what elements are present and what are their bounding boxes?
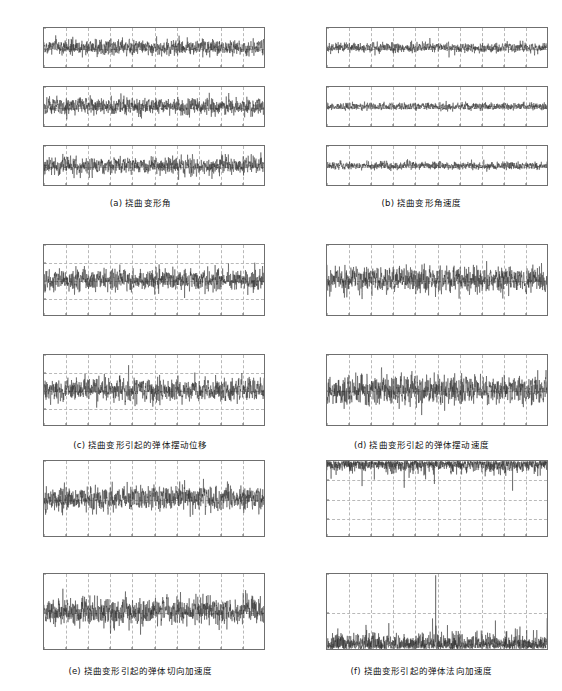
x-tick-mark — [370, 183, 371, 186]
x-tick-mark — [437, 534, 438, 537]
subplot: 500-500102030405060708090100t / sωϕz / (… — [326, 145, 548, 186]
data-trace — [44, 245, 264, 315]
y-tick-mark — [44, 355, 47, 356]
x-tick-mark — [526, 423, 527, 426]
x-tick-mark — [481, 534, 482, 537]
x-tick-mark — [243, 423, 244, 426]
x-tick-mark — [154, 534, 155, 537]
x-tick-mark — [326, 647, 327, 650]
x-tick-mark — [393, 65, 394, 68]
x-tick-mark — [43, 124, 44, 127]
x-tick-mark — [415, 183, 416, 186]
x-tick-mark — [87, 183, 88, 186]
data-trace — [44, 574, 264, 649]
x-tick-mark — [198, 647, 199, 650]
y-tick-mark — [44, 612, 47, 613]
panel-caption: (b) 挠曲变形角速度 — [281, 196, 562, 208]
x-tick-mark — [110, 647, 111, 650]
plot-area: 0.020.010-0.01-0.02010203040506070809010… — [43, 354, 265, 426]
x-tick-mark — [243, 124, 244, 127]
x-tick-mark — [481, 313, 482, 316]
x-tick-mark — [459, 534, 460, 537]
y-tick-mark — [44, 299, 47, 300]
x-tick-mark — [348, 183, 349, 186]
x-tick-mark — [65, 183, 66, 186]
x-tick-mark — [132, 647, 133, 650]
panel-c: 0.020.010-0.01-0.02010203040506070809010… — [0, 222, 281, 444]
x-tick-mark — [415, 65, 416, 68]
data-trace — [44, 461, 264, 536]
x-tick-mark — [459, 423, 460, 426]
x-tick-mark — [437, 65, 438, 68]
plot-area: 0-0.1-0.2-0.3-0.40102030405060708090100t… — [326, 460, 548, 537]
y-tick-mark — [327, 28, 330, 29]
x-tick-mark — [481, 423, 482, 426]
x-tick-mark — [415, 534, 416, 537]
x-tick-mark — [481, 124, 482, 127]
x-tick-mark — [437, 313, 438, 316]
x-tick-mark — [176, 534, 177, 537]
x-tick-mark — [348, 423, 349, 426]
subplot-stack: 50-50102030405060708090100t / safy / m·s… — [0, 444, 281, 650]
plot-area: 10-10102030405060708090100t / sΔϕy / (°) — [43, 27, 265, 68]
x-tick-mark — [110, 124, 111, 127]
x-tick-mark — [132, 65, 133, 68]
x-tick-mark — [65, 423, 66, 426]
y-tick-mark — [44, 574, 47, 575]
x-tick-mark — [43, 65, 44, 68]
x-tick-mark — [65, 65, 66, 68]
x-tick-mark — [459, 124, 460, 127]
x-tick-mark — [110, 183, 111, 186]
data-trace — [44, 28, 264, 67]
subplot: 0.50-0.50102030405060708090100t / sVfy /… — [326, 244, 548, 316]
x-tick-mark — [176, 65, 177, 68]
x-tick-mark — [504, 65, 505, 68]
x-tick-mark — [393, 534, 394, 537]
x-tick-mark — [221, 423, 222, 426]
x-tick-mark — [43, 183, 44, 186]
panel-d: 0.50-0.50102030405060708090100t / sVfy /… — [281, 222, 562, 444]
panel-caption: (f) 挠曲变形引起的弹体法向加速度 — [281, 664, 562, 676]
x-tick-mark — [526, 313, 527, 316]
panel-caption: (e) 挠曲变形引起的弹体切向加速度 — [0, 664, 281, 676]
x-tick-mark — [154, 124, 155, 127]
x-tick-mark — [326, 534, 327, 537]
y-tick-mark — [44, 409, 47, 410]
subplot: 50-50102030405060708090100t / safz / m·s… — [43, 573, 265, 650]
y-tick-mark — [327, 391, 330, 392]
x-tick-mark — [221, 183, 222, 186]
x-tick-mark — [526, 65, 527, 68]
x-tick-mark — [65, 647, 66, 650]
x-tick-mark — [87, 313, 88, 316]
x-tick-mark — [43, 313, 44, 316]
y-tick-mark — [44, 28, 47, 29]
x-tick-mark — [243, 534, 244, 537]
x-tick-mark — [87, 65, 88, 68]
plot-area: 0.50-0.50102030405060708090100t / sVfz /… — [326, 354, 548, 426]
data-trace — [44, 87, 264, 126]
x-tick-mark — [326, 423, 327, 426]
panel-b: 200-200102030405060708090100t / sωϕx / (… — [281, 0, 562, 222]
x-tick-mark — [221, 534, 222, 537]
x-tick-mark — [415, 423, 416, 426]
subplot: 10-10102030405060708090100t / sΔϕy / (°) — [43, 27, 265, 68]
y-tick-mark — [327, 518, 330, 519]
y-tick-mark — [44, 166, 47, 167]
y-tick-mark — [327, 574, 330, 575]
y-tick-mark — [327, 461, 330, 462]
x-tick-mark — [326, 313, 327, 316]
x-tick-mark — [348, 647, 349, 650]
x-tick-mark — [243, 65, 244, 68]
y-tick-mark — [44, 48, 47, 49]
x-tick-mark — [243, 647, 244, 650]
x-tick-mark — [198, 313, 199, 316]
y-tick-mark — [327, 166, 330, 167]
subplot: 0-0.1-0.2-0.3-0.40102030405060708090100t… — [326, 460, 548, 537]
x-tick-mark — [326, 124, 327, 127]
x-tick-mark — [110, 65, 111, 68]
x-tick-mark — [154, 65, 155, 68]
y-tick-mark — [327, 480, 330, 481]
y-tick-mark — [327, 281, 330, 282]
x-tick-mark — [459, 647, 460, 650]
x-tick-mark — [370, 124, 371, 127]
